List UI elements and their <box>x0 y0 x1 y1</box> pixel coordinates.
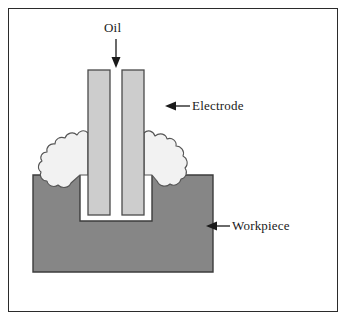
oil-label: Oil <box>104 20 121 36</box>
electrode-right-prong <box>122 70 144 215</box>
workpiece-label: Workpiece <box>232 218 290 234</box>
oil-arrow-icon <box>112 39 121 68</box>
electrode-label: Electrode <box>192 98 244 114</box>
electrode-left-prong <box>88 70 110 215</box>
debris-cloud-right-shape <box>144 131 187 186</box>
electrode-arrow-icon <box>165 102 190 111</box>
edm-diagram-svg <box>0 0 348 322</box>
figure-root: Oil Electrode Workpiece <box>0 0 348 322</box>
